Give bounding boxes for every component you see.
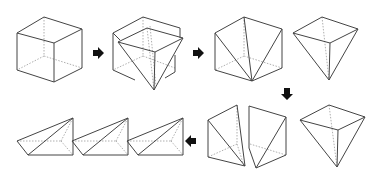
inverted-pyramid-figure-top: [293, 17, 358, 80]
cube-figure: [17, 17, 82, 82]
split-halves-figure: [208, 105, 286, 168]
pyramid-3-figure: [127, 118, 183, 155]
arrow-right-icon: [93, 47, 104, 59]
inverted-pyramid-figure-bottom: [300, 105, 365, 167]
pyramid-2-figure: [72, 118, 128, 155]
arrow-left-icon: [185, 135, 196, 147]
pyramid-1-figure: [17, 118, 73, 155]
arrow-down-icon: [281, 88, 293, 100]
arrow-right-icon: [193, 47, 204, 59]
diagram-canvas: [0, 0, 378, 183]
cube-dissection-diagram: [0, 0, 378, 183]
cube-cut-diagonals-figure: [215, 17, 282, 81]
cube-with-inverted-pyramid-figure: [113, 17, 183, 90]
